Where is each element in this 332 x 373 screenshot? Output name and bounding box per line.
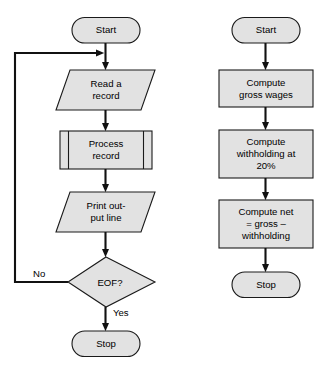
node-compute-withholding-label-line-3: 20% — [256, 160, 276, 171]
node-read-record-label-line-1: Read a — [91, 78, 123, 89]
node-start-1-label: Start — [96, 24, 117, 35]
node-compute-net-label-line-3: withholding — [241, 230, 290, 241]
node-process-record-label-line-1: Process — [89, 138, 124, 149]
node-process-record-label-line-2: record — [92, 150, 119, 161]
edge-label-yes: Yes — [113, 307, 129, 318]
node-read-record-label-line-2: record — [92, 90, 119, 101]
node-eof-decision: EOF? — [68, 257, 155, 307]
node-print-output-label-line-1: Print out- — [87, 200, 126, 211]
flowchart-canvas: Start Read a record Process record Print… — [0, 0, 332, 373]
node-eof-decision-label: EOF? — [97, 277, 122, 288]
node-start-2-label: Start — [256, 24, 277, 35]
node-process-record: Process record — [60, 131, 152, 169]
edge-label-no: No — [33, 268, 45, 279]
node-compute-gross: Compute gross wages — [219, 70, 313, 107]
node-stop-2: Stop — [232, 272, 300, 298]
node-compute-net-label-line-1: Compute net — [239, 206, 294, 217]
node-compute-withholding: Compute withholding at 20% — [219, 130, 313, 178]
node-compute-withholding-label-line-2: withholding at — [236, 148, 296, 159]
node-compute-gross-label-line-2: gross wages — [239, 89, 293, 100]
flowchart-diagram: Start Read a record Process record Print… — [0, 0, 332, 373]
node-stop-2-label: Stop — [256, 279, 276, 290]
node-read-record: Read a record — [56, 70, 155, 110]
node-print-output-label-line-2: put line — [91, 212, 122, 223]
node-print-output: Print out- put line — [56, 192, 155, 232]
node-stop-1: Stop — [72, 331, 140, 357]
node-compute-gross-label-line-1: Compute — [247, 77, 286, 88]
node-compute-net: Compute net = gross – withholding — [219, 200, 313, 248]
node-compute-net-label-line-2: = gross – — [246, 218, 286, 229]
node-stop-1-label: Stop — [96, 338, 116, 349]
node-compute-withholding-label-line-1: Compute — [247, 136, 286, 147]
node-start-2: Start — [232, 18, 300, 44]
node-start-1: Start — [72, 18, 140, 44]
